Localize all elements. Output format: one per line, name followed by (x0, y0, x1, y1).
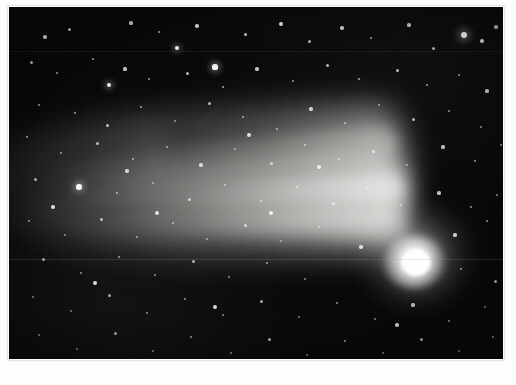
screenshot-root: Astronomical photograph of a bright come… (0, 0, 516, 385)
comet-photograph: Astronomical photograph of a bright come… (9, 7, 503, 359)
night-sky-background (9, 7, 503, 359)
